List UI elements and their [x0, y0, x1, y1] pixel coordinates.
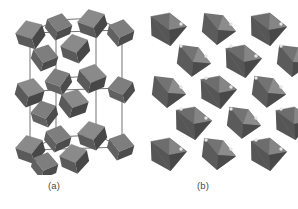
panel-b-svg	[149, 0, 298, 175]
panel-b-caption: (b)	[197, 180, 209, 191]
panel-a-caption: (a)	[48, 180, 60, 191]
octahedra-row-5	[150, 136, 288, 172]
caption-row: (a) (b)	[0, 176, 298, 209]
panel-a-svg	[0, 0, 149, 175]
panel-b-axial-projection	[149, 0, 298, 175]
panel-a-unit-cell-perspective	[0, 0, 149, 175]
octahedra-row-1	[150, 11, 288, 47]
crystal-structure-figure: (a) (b)	[0, 0, 298, 209]
